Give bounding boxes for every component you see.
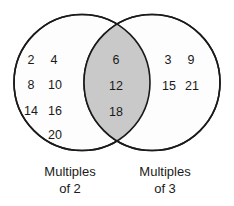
left-set-member: 4 (51, 54, 58, 67)
intersection-member: 12 (109, 80, 123, 93)
left-set-member: 16 (48, 105, 62, 118)
left-set-member: 14 (24, 105, 38, 118)
intersection-member: 6 (113, 54, 120, 67)
right-set-label: Multiples of 3 (139, 163, 190, 197)
venn-diagram-figure: 2 4 8 10 14 16 20 6 12 18 3 9 15 21 Mult… (0, 0, 234, 206)
right-set-label-line2: of 3 (139, 180, 190, 197)
intersection-member: 18 (109, 106, 123, 119)
left-set-member: 10 (48, 79, 62, 92)
left-set-label: Multiples of 2 (44, 163, 95, 197)
left-set-label-line1: Multiples (44, 163, 95, 180)
left-set-member: 20 (48, 129, 62, 142)
left-set-label-line2: of 2 (44, 180, 95, 197)
right-set-member: 3 (165, 54, 172, 67)
left-set-member: 2 (28, 54, 35, 67)
right-set-member: 21 (185, 80, 199, 93)
right-set-member: 9 (188, 54, 195, 67)
right-set-label-line1: Multiples (139, 163, 190, 180)
left-set-member: 8 (28, 79, 35, 92)
right-set-member: 15 (162, 80, 176, 93)
